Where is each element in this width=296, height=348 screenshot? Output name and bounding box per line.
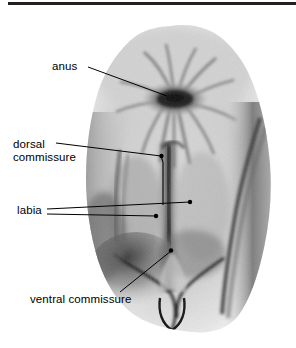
page-rule bbox=[8, 2, 296, 5]
specimen-photograph bbox=[74, 22, 276, 334]
label-labia: labia bbox=[17, 204, 42, 217]
label-dorsal-commissure-line2: commissure bbox=[13, 151, 76, 164]
figure-page: anus dorsal commissure labia ventral com… bbox=[0, 0, 296, 348]
label-dorsal-commissure-line1: dorsal bbox=[13, 138, 45, 150]
label-ventral-commissure: ventral commissure bbox=[30, 293, 132, 306]
label-dorsal-commissure: dorsal commissure bbox=[13, 138, 76, 164]
label-anus: anus bbox=[52, 60, 77, 73]
specimen-photograph-image bbox=[74, 22, 276, 334]
